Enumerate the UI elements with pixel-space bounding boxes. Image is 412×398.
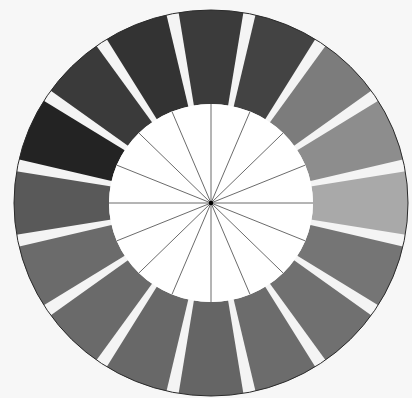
color-wheel-diagram — [0, 0, 412, 398]
center-hub-dot — [209, 201, 213, 205]
